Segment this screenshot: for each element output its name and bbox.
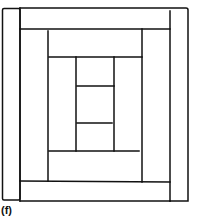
outer-top-strip xyxy=(20,8,188,201)
outer-bottom-strip-top-edge xyxy=(20,181,170,182)
log-cabin-block-diagram xyxy=(0,0,199,221)
figure-label: (f) xyxy=(1,204,12,216)
outer-left-strip xyxy=(3,9,21,201)
